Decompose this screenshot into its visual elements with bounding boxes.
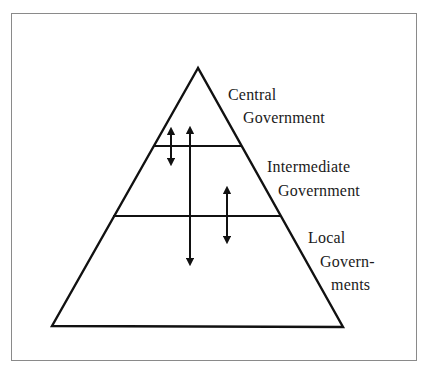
label-intermediate-line2: Government bbox=[278, 180, 360, 202]
label-intermediate-line1: Intermediate bbox=[267, 156, 350, 178]
label-local-line1: Local bbox=[308, 227, 345, 249]
label-central-line2: Government bbox=[243, 107, 325, 129]
label-local-line3: ments bbox=[331, 274, 370, 296]
label-central-line1: Central bbox=[228, 84, 277, 106]
pyramid-diagram bbox=[0, 0, 424, 372]
label-local-line2: Govern- bbox=[320, 251, 375, 273]
